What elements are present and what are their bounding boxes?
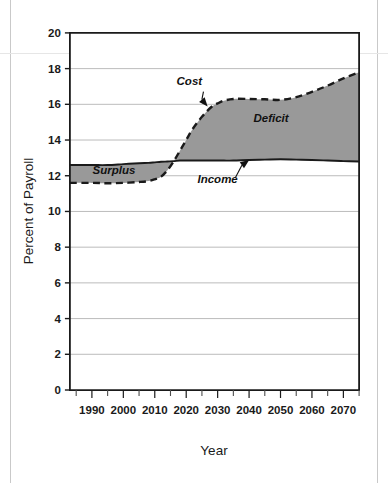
x-tick-label: 1990: [79, 404, 105, 416]
annotation-label-income: Income: [198, 173, 239, 185]
y-tick-label: 18: [48, 63, 61, 75]
y-tick-label: 0: [54, 384, 60, 396]
x-tick-label: 2060: [299, 404, 325, 416]
y-tick-label: 6: [54, 277, 60, 289]
y-tick-label: 4: [54, 313, 61, 325]
chart-figure: 02468101214161820 1990200020102020203020…: [0, 0, 388, 483]
y-tick-label: 14: [48, 134, 61, 146]
annotation-label-cost: Cost: [177, 75, 204, 87]
x-tick-label: 2020: [173, 404, 199, 416]
y-tick-label: 16: [48, 98, 61, 110]
annotation-label-surplus: Surplus: [93, 164, 136, 176]
x-tick-label: 2010: [142, 404, 168, 416]
y-tick-label: 10: [48, 205, 61, 217]
x-tick-label: 2000: [111, 404, 137, 416]
y-tick-label: 20: [48, 27, 61, 39]
x-axis-major-ticks: [92, 390, 343, 398]
y-tick-label: 12: [48, 170, 61, 182]
annotation-label-deficit: Deficit: [254, 112, 290, 124]
x-tick-label: 2070: [331, 404, 357, 416]
x-tick-label: 2030: [205, 404, 231, 416]
x-axis-title: Year: [200, 443, 228, 458]
x-tick-label: 2040: [236, 404, 262, 416]
x-tick-label: 2050: [268, 404, 294, 416]
x-axis-tick-labels: 199020002010202020302040205020602070: [79, 404, 356, 416]
y-tick-label: 8: [54, 241, 61, 253]
y-axis-tick-labels: 02468101214161820: [48, 27, 61, 396]
y-axis-title: Percent of Payroll: [21, 158, 36, 265]
y-tick-label: 2: [54, 348, 60, 360]
chart-svg: 02468101214161820 1990200020102020203020…: [0, 0, 388, 483]
